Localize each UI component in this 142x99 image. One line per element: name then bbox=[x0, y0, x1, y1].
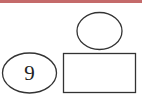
top-ellipse bbox=[77, 13, 122, 50]
left-ellipse-number: 9 bbox=[24, 61, 35, 85]
diagram-canvas: 9 bbox=[0, 0, 142, 99]
answer-box bbox=[64, 54, 136, 93]
